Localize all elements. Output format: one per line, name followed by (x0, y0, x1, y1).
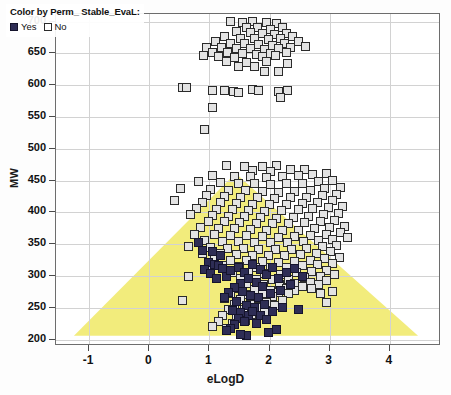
x-tick-mark (148, 345, 149, 351)
legend-entry-yes[interactable]: Yes (10, 21, 37, 34)
scatter-point-yes[interactable] (232, 297, 241, 306)
scatter-point-no[interactable] (330, 270, 339, 279)
scatter-point-yes[interactable] (286, 280, 295, 289)
scatter-point-no[interactable] (226, 17, 235, 26)
scatter-point-no[interactable] (274, 67, 283, 76)
y-tick-label: 200 (6, 332, 46, 344)
scatter-point-no[interactable] (190, 230, 199, 239)
scatter-point-yes[interactable] (268, 263, 277, 272)
legend-entries: Yes No (10, 21, 140, 34)
scatter-point-no[interactable] (328, 287, 337, 296)
x-tick-label: 3 (314, 353, 344, 367)
scatter-point-no[interactable] (186, 210, 195, 219)
scatter-point-no[interactable] (254, 86, 263, 95)
x-axis-title: eLogD (0, 372, 451, 386)
scatter-point-no[interactable] (322, 276, 331, 285)
scatter-point-no[interactable] (271, 51, 280, 60)
scatter-point-no[interactable] (200, 125, 209, 134)
scatter-point-no[interactable] (230, 53, 239, 62)
y-tick-label: 400 (6, 204, 46, 216)
scatter-point-no[interactable] (194, 177, 203, 186)
scatter-point-yes[interactable] (272, 325, 281, 334)
legend-label-no: No (55, 21, 67, 34)
scatter-point-no[interactable] (234, 62, 243, 71)
scatter-point-yes[interactable] (198, 246, 207, 255)
legend-title: Color by Perm_ Stable_EvaL: (10, 6, 140, 19)
scatter-point-yes[interactable] (212, 274, 221, 283)
x-tick-mark (329, 345, 330, 351)
scatter-point-yes[interactable] (240, 317, 249, 326)
scatter-point-yes[interactable] (278, 303, 287, 312)
y-tick-label: 250 (6, 300, 46, 312)
x-tick-label: 2 (254, 353, 284, 367)
gridline-vertical (89, 14, 90, 344)
scatter-point-no[interactable] (282, 48, 291, 57)
scatter-point-no[interactable] (316, 289, 325, 298)
scatter-point-no[interactable] (234, 88, 243, 97)
scatter-point-no[interactable] (182, 83, 191, 92)
y-tick-label: 600 (6, 77, 46, 89)
legend-entry-no[interactable]: No (44, 21, 67, 34)
gridline-vertical (390, 14, 391, 344)
scatter-point-no[interactable] (276, 93, 285, 102)
scatter-point-no[interactable] (322, 298, 331, 307)
scatter-point-no[interactable] (307, 284, 316, 293)
scatter-point-no[interactable] (184, 272, 193, 281)
x-tick-label: 4 (374, 353, 404, 367)
scatter-point-no[interactable] (274, 233, 283, 242)
y-tick-label: 550 (6, 109, 46, 121)
x-tick-label: 0 (133, 353, 163, 367)
scatter-point-no[interactable] (343, 233, 352, 242)
scatter-point-yes[interactable] (220, 293, 229, 302)
scatter-point-no[interactable] (220, 86, 229, 95)
scatter-point-no[interactable] (222, 161, 231, 170)
legend: Color by Perm_ Stable_EvaL: Yes No (6, 4, 144, 37)
y-tick-label: 450 (6, 173, 46, 185)
scatter-point-no[interactable] (262, 57, 271, 66)
scatter-plot-figure: MW eLogD 2002503003504004505005506006507… (0, 0, 451, 395)
x-tick-mark (389, 345, 390, 351)
scatter-point-no[interactable] (184, 242, 193, 251)
legend-swatch-yes-icon (10, 23, 18, 31)
plot-area (55, 13, 440, 345)
scatter-point-no[interactable] (250, 62, 259, 71)
scatter-point-no[interactable] (199, 51, 208, 60)
x-tick-label: -1 (73, 353, 103, 367)
x-tick-mark (208, 345, 209, 351)
y-tick-label: 500 (6, 141, 46, 153)
scatter-point-no[interactable] (238, 49, 247, 58)
scatter-point-no[interactable] (208, 322, 217, 331)
x-tick-mark (88, 345, 89, 351)
scatter-point-yes[interactable] (266, 289, 275, 298)
scatter-point-no[interactable] (176, 184, 185, 193)
scatter-point-no[interactable] (301, 42, 310, 51)
scatter-point-no[interactable] (170, 196, 179, 205)
scatter-point-no[interactable] (283, 59, 292, 68)
gridline-horizontal (56, 149, 439, 150)
legend-swatch-no-icon (44, 23, 52, 31)
scatter-point-yes[interactable] (294, 305, 303, 314)
scatter-point-no[interactable] (222, 57, 231, 66)
y-tick-label: 350 (6, 236, 46, 248)
scatter-point-yes[interactable] (252, 319, 261, 328)
gridline-horizontal (56, 53, 439, 54)
scatter-point-no[interactable] (204, 217, 213, 226)
scatter-point-yes[interactable] (222, 326, 231, 335)
scatter-point-no[interactable] (208, 103, 217, 112)
scatter-point-no[interactable] (298, 282, 307, 291)
legend-label-yes: Yes (21, 21, 37, 34)
scatter-point-no[interactable] (260, 67, 269, 76)
gridline-vertical (149, 14, 150, 344)
scatter-point-no[interactable] (178, 296, 187, 305)
scatter-point-yes[interactable] (276, 286, 285, 295)
gridline-horizontal (56, 117, 439, 118)
y-tick-label: 300 (6, 268, 46, 280)
x-tick-mark (269, 345, 270, 351)
scatter-point-yes[interactable] (236, 330, 245, 339)
scatter-point-yes[interactable] (262, 315, 271, 324)
x-tick-label: 1 (193, 353, 223, 367)
scatter-point-yes[interactable] (298, 272, 307, 281)
y-tick-label: 650 (6, 45, 46, 57)
scatter-point-no[interactable] (208, 86, 217, 95)
scatter-point-yes[interactable] (216, 251, 225, 260)
